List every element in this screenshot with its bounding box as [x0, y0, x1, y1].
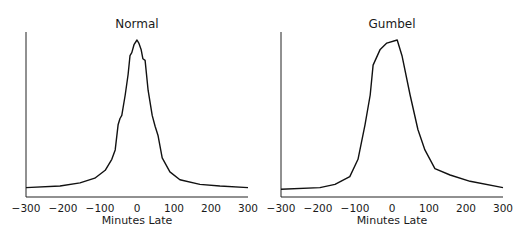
x-tick-label: −200 — [304, 202, 333, 214]
x-tick-label: 0 — [134, 202, 141, 214]
density-curve — [26, 40, 248, 188]
x-tick-label: 100 — [419, 202, 439, 214]
subplot-normal: Normal −300−200−1000100200300 Minutes La… — [12, 17, 258, 227]
x-tick-label: −300 — [267, 202, 296, 214]
x-tick-label: 300 — [238, 202, 258, 214]
x-tick-label: 300 — [493, 202, 513, 214]
x-tick-label: −100 — [341, 202, 370, 214]
x-tick-label: 200 — [201, 202, 221, 214]
x-tick-label: 100 — [164, 202, 184, 214]
x-tick-labels: −300−200−1000100200300 — [12, 202, 258, 214]
x-tick-label: 200 — [456, 202, 476, 214]
x-tick-label: −200 — [49, 202, 78, 214]
figure: Normal −300−200−1000100200300 Minutes La… — [0, 0, 527, 232]
subplot-title: Normal — [115, 17, 158, 31]
subplot-gumbel: Gumbel −300−200−1000100200300 Minutes La… — [267, 17, 513, 227]
x-tick-label: −100 — [86, 202, 115, 214]
x-tick-labels: −300−200−1000100200300 — [267, 202, 513, 214]
density-curve — [281, 40, 503, 189]
x-axis-label: Minutes Late — [357, 214, 428, 227]
x-tick-label: 0 — [389, 202, 396, 214]
x-tick-label: −300 — [12, 202, 41, 214]
x-axis-label: Minutes Late — [102, 214, 173, 227]
subplot-title: Gumbel — [369, 17, 416, 31]
